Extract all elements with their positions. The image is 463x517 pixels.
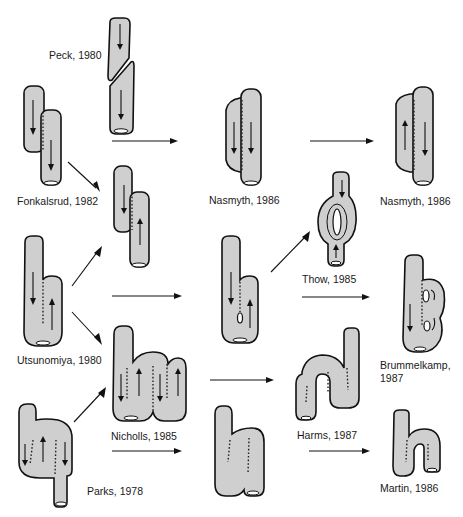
harms-pouch-icon — [296, 328, 359, 420]
parks-pouch-icon — [19, 404, 72, 507]
label-nasmyth-mid: Nasmyth, 1986 — [209, 194, 280, 206]
martin-pouch-icon — [393, 410, 440, 476]
nicholls-pouch-icon — [113, 326, 186, 421]
utsunomiya-pouch-icon — [24, 236, 62, 346]
label-thow: Thow, 1985 — [302, 273, 356, 285]
label-harms: Harms, 1987 — [297, 429, 357, 441]
label-brummelkamp: Brummelkamp, — [380, 359, 451, 371]
label-nasmyth-right: Nasmyth, 1986 — [380, 195, 451, 207]
label-martin: Martin, 1986 — [380, 482, 438, 494]
nasmyth-mid-pouch-icon — [226, 89, 261, 185]
nasmyth-right-pouch-icon — [396, 87, 433, 185]
thow-pouch-icon — [318, 172, 356, 266]
label-utsunomiya: Utsunomiya, 1980 — [17, 354, 102, 366]
peck-pouch-icon — [108, 18, 134, 134]
label-nicholls: Nicholls, 1985 — [111, 430, 177, 442]
fonkalsrud-pouch-icon — [24, 86, 61, 185]
pouch-evolution-diagram — [0, 0, 463, 517]
label-brummelkamp-year: 1987 — [380, 372, 403, 384]
j-s-pouch-icon — [215, 406, 264, 496]
brummelkamp-pouch-icon — [403, 255, 445, 352]
j-pouch-loop-icon — [222, 236, 258, 343]
label-parks: Parks, 1978 — [87, 485, 143, 497]
label-fonkalsrud: Fonkalsrud, 1982 — [17, 195, 98, 207]
label-peck: Peck, 1980 — [49, 49, 102, 61]
offset-side-pouch-icon — [114, 166, 149, 267]
